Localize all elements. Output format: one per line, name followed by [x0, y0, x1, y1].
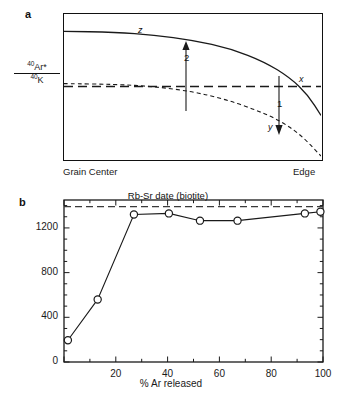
- data-point: [64, 337, 71, 344]
- panel-a: a 40Ar* 40K: [0, 0, 342, 190]
- chart-axes: [64, 200, 323, 362]
- arrow-label-1: 1: [277, 98, 282, 109]
- panel-a-x-right-label: Edge: [293, 166, 315, 177]
- panel-b-x-axis-title: % Ar released: [0, 378, 342, 389]
- panel-a-letter: a: [25, 8, 31, 20]
- panel-a-curves: [64, 14, 321, 159]
- data-point: [196, 217, 203, 224]
- y-tick-label: 400: [18, 310, 58, 321]
- curve-label-y: y: [268, 122, 273, 132]
- panel-b-letter: b: [19, 196, 26, 208]
- curve-z-solid: [64, 31, 321, 115]
- reference-line-label: Rb-Sr date (biotite): [128, 190, 208, 201]
- data-point: [94, 296, 101, 303]
- data-point: [130, 211, 137, 218]
- y-tick-label: 0: [18, 355, 58, 366]
- y-axis-denominator: 40K: [14, 74, 60, 85]
- y-tick-label: 800: [18, 266, 58, 277]
- age-spectrum-chart: [64, 200, 323, 362]
- numerator-text: Ar*: [34, 62, 47, 72]
- panel-b: b 04008001200 20406080100 Rb-Sr date (bi…: [0, 190, 342, 397]
- data-point: [165, 210, 172, 217]
- arrow-label-2: 2: [184, 52, 189, 63]
- data-series-group: [64, 208, 324, 344]
- data-point: [234, 217, 241, 224]
- panel-a-plot-frame: [63, 13, 323, 161]
- curve-label-x: x: [299, 74, 304, 84]
- y-tick-label: 1200: [18, 221, 58, 232]
- data-point: [301, 210, 308, 217]
- data-point: [317, 208, 324, 215]
- panel-b-plot-area: 04008001200 20406080100 Rb-Sr date (biot…: [64, 200, 323, 362]
- panel-a-y-axis-label: 40Ar* 40K: [14, 62, 60, 86]
- denominator-text: K: [38, 75, 44, 85]
- curve-y-dashed: [64, 84, 321, 157]
- figure-container: a 40Ar* 40K: [0, 0, 342, 397]
- denominator-superscript: 40: [30, 73, 37, 80]
- curve-label-z: z: [138, 25, 143, 35]
- panel-a-x-left-label: Grain Center: [63, 166, 117, 177]
